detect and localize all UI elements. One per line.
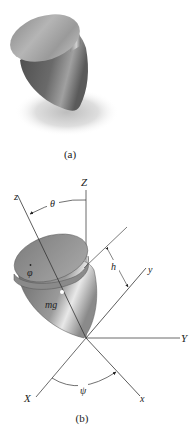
label-z: z [13,190,19,202]
figure-b-axes-diagram: Z z θ φ mg y h Y X [0,170,193,432]
label-y: y [147,264,153,275]
label-Z: Z [81,176,88,188]
phi-dot-marker [30,264,32,266]
label-phi-dot: φ [27,267,33,278]
label-theta: θ [50,198,55,209]
caption-a: (a) [64,148,77,161]
euler-angle-diagram: Z z θ φ mg y h Y X [0,170,193,432]
label-x: x [139,393,145,404]
psi-arc [52,372,116,386]
figure-a-top-illustration: (a) [0,0,193,170]
label-Y: Y [181,332,189,344]
h-reference-line [84,227,127,268]
label-mg: mg [45,299,57,310]
spinning-top-render: (a) [0,0,193,170]
caption-b: (b) [76,412,89,425]
center-of-mass [60,290,64,294]
label-psi: ψ [80,385,87,396]
label-h: h [111,261,116,272]
label-X: X [23,392,32,404]
x-axis [86,338,140,396]
